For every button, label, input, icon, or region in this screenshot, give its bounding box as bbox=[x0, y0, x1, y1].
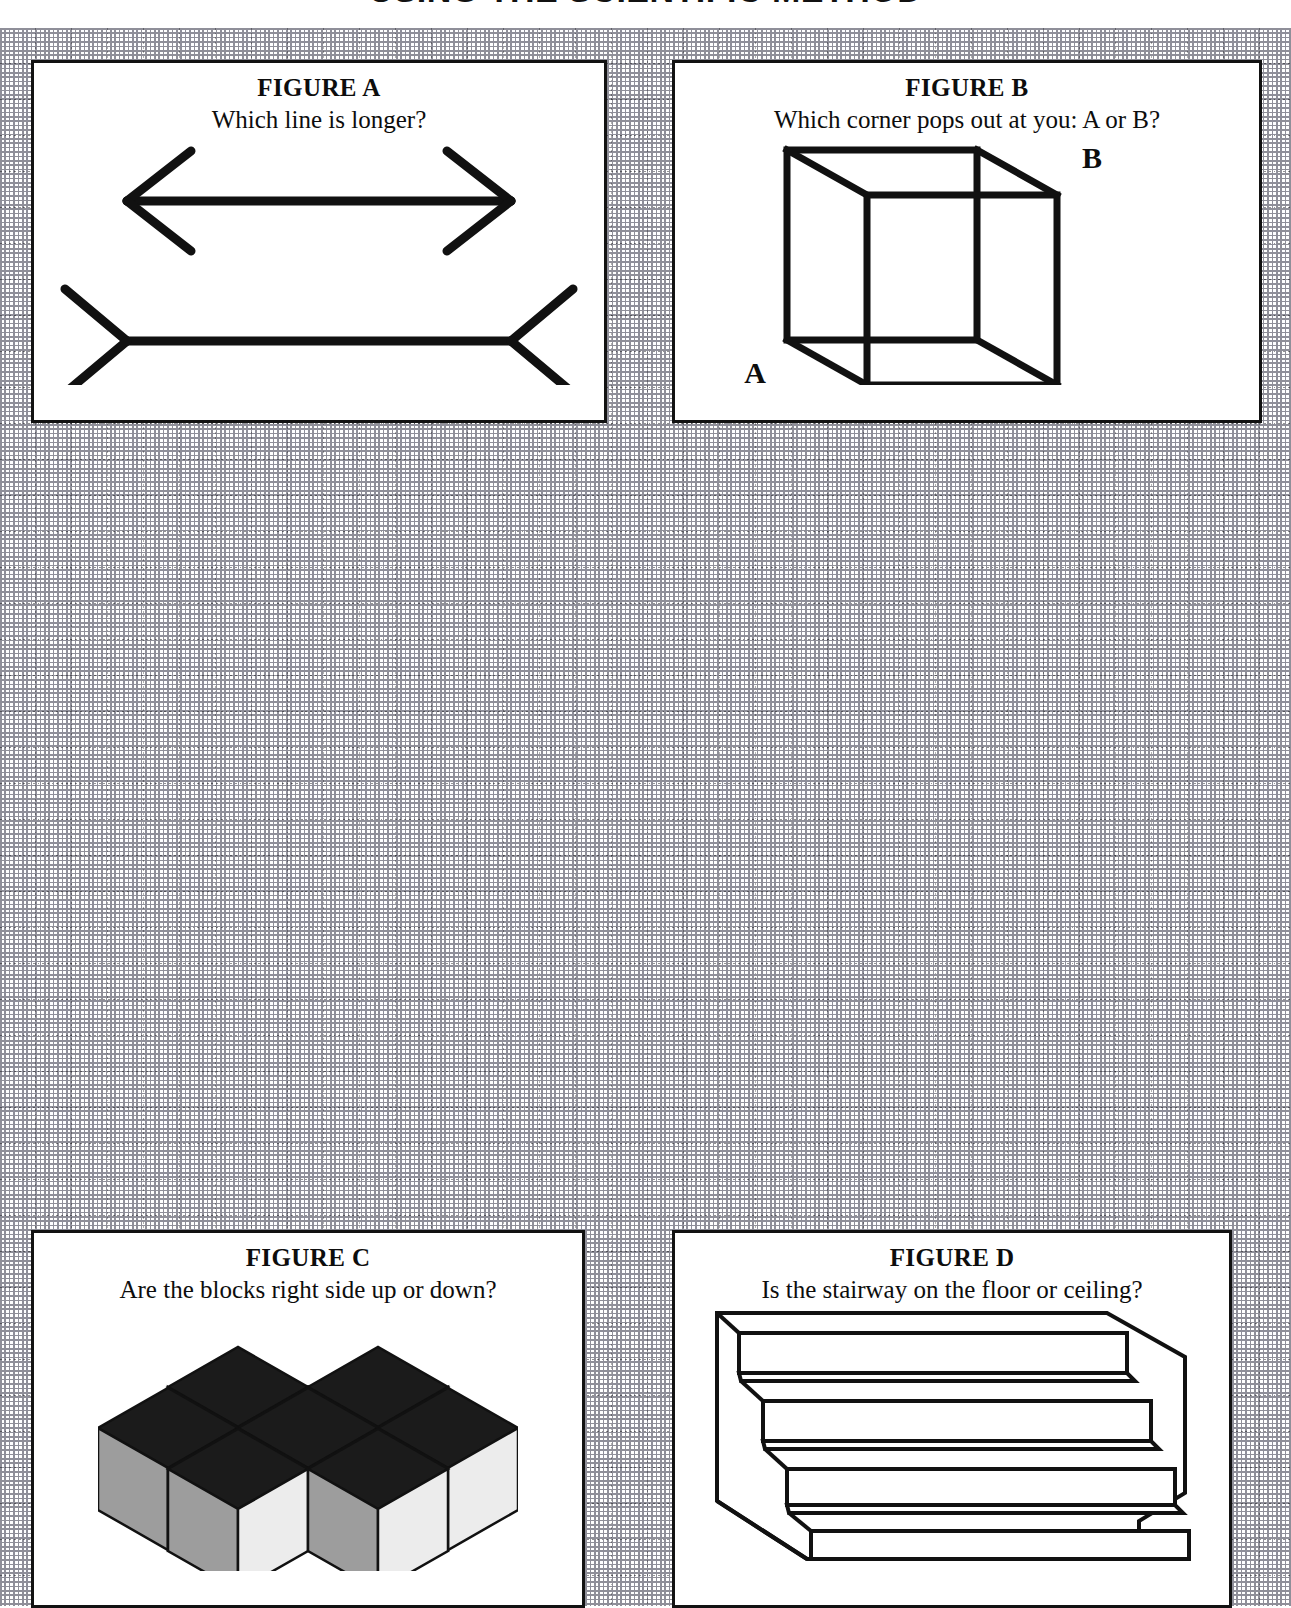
staircase-step1-face bbox=[739, 1333, 1127, 1373]
figure-b-artwork: A B bbox=[675, 135, 1259, 385]
staircase-step1-tread bbox=[739, 1373, 1135, 1381]
figure-a-question: Which line is longer? bbox=[34, 104, 604, 135]
figure-b-label: FIGURE B bbox=[675, 73, 1259, 103]
worksheet-page: USING THE SCIENTIFIC METHOD FIGURE A Whi… bbox=[0, 0, 1291, 1608]
figure-box-c: FIGURE C Are the blocks right side up or… bbox=[31, 1230, 585, 1608]
figure-d-label: FIGURE D bbox=[675, 1243, 1229, 1273]
muller-lyer-bottom-left-fin-upper bbox=[65, 289, 127, 341]
staircase-step4-face bbox=[811, 1531, 1189, 1559]
necker-cube-edge-top-right bbox=[977, 150, 1057, 195]
necker-cube-back-face bbox=[787, 150, 977, 340]
staircase-step2-tread bbox=[763, 1441, 1159, 1449]
figure-box-d: FIGURE D Is the stairway on the floor or… bbox=[672, 1230, 1232, 1608]
isometric-blocks-illusion bbox=[98, 1305, 518, 1571]
necker-cube-edge-top-left bbox=[787, 150, 867, 195]
necker-cube-edge-bottom-right bbox=[977, 340, 1057, 385]
figure-a-artwork: --> bbox=[34, 135, 604, 385]
staircase-step3-face bbox=[787, 1469, 1175, 1505]
schroeder-staircase-illusion bbox=[707, 1305, 1197, 1567]
necker-cube-front-face bbox=[867, 195, 1057, 385]
muller-lyer-top-right-fin-upper bbox=[447, 151, 511, 201]
page-title: USING THE SCIENTIFIC METHOD bbox=[0, 0, 1291, 10]
muller-lyer-bottom-right-fin-lower bbox=[511, 341, 573, 385]
necker-cube-label-a: A bbox=[744, 356, 766, 385]
muller-lyer-illusion: --> bbox=[59, 135, 579, 385]
figure-c-artwork bbox=[34, 1305, 582, 1571]
figure-d-artwork bbox=[675, 1305, 1229, 1567]
staircase-step3-tread bbox=[787, 1505, 1183, 1513]
figure-box-a: FIGURE A Which line is longer? --> bbox=[31, 60, 607, 423]
figure-c-label: FIGURE C bbox=[34, 1243, 582, 1273]
figure-c-question: Are the blocks right side up or down? bbox=[34, 1274, 582, 1305]
necker-cube-illusion: A B bbox=[727, 135, 1207, 385]
muller-lyer-bottom-right-fin-upper bbox=[511, 289, 573, 341]
isometric-cube-stack bbox=[98, 1347, 518, 1571]
muller-lyer-bottom-left-fin-lower bbox=[65, 341, 127, 385]
necker-cube-label-b: B bbox=[1082, 141, 1102, 174]
muller-lyer-top-right-fin-lower bbox=[447, 201, 511, 251]
figure-a-label: FIGURE A bbox=[34, 73, 604, 103]
muller-lyer-top-left-fin-lower bbox=[127, 201, 191, 251]
figure-b-question: Which corner pops out at you: A or B? bbox=[675, 104, 1259, 135]
figure-d-question: Is the stairway on the floor or ceiling? bbox=[675, 1274, 1229, 1305]
figure-box-b: FIGURE B Which corner pops out at you: A… bbox=[672, 60, 1262, 423]
necker-cube-edge-bottom-left bbox=[787, 340, 867, 385]
staircase-step2-face bbox=[763, 1401, 1151, 1441]
muller-lyer-top-left-fin-upper bbox=[127, 151, 191, 201]
